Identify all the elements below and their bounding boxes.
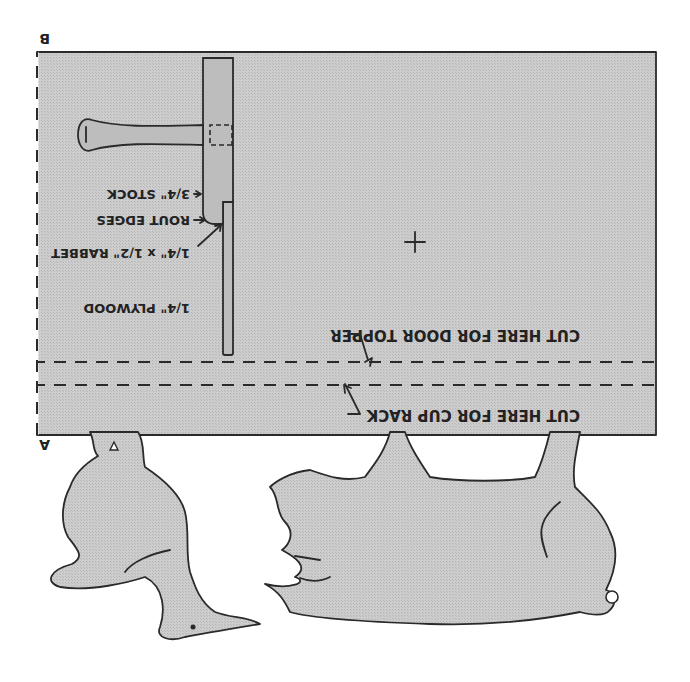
callout-rabbet: 1/4" x 1/2" RABBET [51, 246, 190, 261]
plywood-strip [223, 200, 233, 355]
callout-rout-edges: ROUT EDGES [96, 213, 190, 228]
goose-eye [191, 625, 196, 630]
pattern-svg: A B CUT HERE FOR DOOR TOPPER CUT HERE FO… [0, 0, 690, 682]
pattern-diagram: A B CUT HERE FOR DOOR TOPPER CUT HERE FO… [0, 0, 690, 682]
cut-label-door-topper: CUT HERE FOR DOOR TOPPER [330, 326, 580, 344]
rotated-group: A B CUT HERE FOR DOOR TOPPER CUT HERE FO… [37, 31, 656, 639]
pig-hang-hole [606, 591, 618, 603]
goose-cutout [51, 432, 260, 639]
panel [37, 52, 656, 435]
callout-plywood: 1/4" PLYWOOD [83, 301, 190, 316]
corner-label-a: A [39, 437, 50, 453]
pig-cutout [265, 432, 616, 624]
stock-block [203, 58, 233, 224]
callout-stock: 3/4" STOCK [106, 187, 190, 202]
corner-label-b: B [39, 31, 50, 47]
cut-label-cup-rack: CUT HERE FOR CUP RACK [365, 406, 580, 424]
